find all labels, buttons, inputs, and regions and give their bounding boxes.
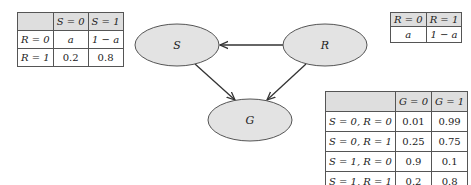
node-s: S [135,24,219,66]
node-r: R [283,24,367,66]
bayes-network-graph: S R G [0,0,471,185]
edge-r-to-g [267,64,306,100]
node-r-label: R [320,39,329,52]
node-g: G [208,99,292,141]
edge-s-to-g [195,64,235,100]
node-s-label: S [173,39,181,52]
node-g-label: G [246,114,255,127]
